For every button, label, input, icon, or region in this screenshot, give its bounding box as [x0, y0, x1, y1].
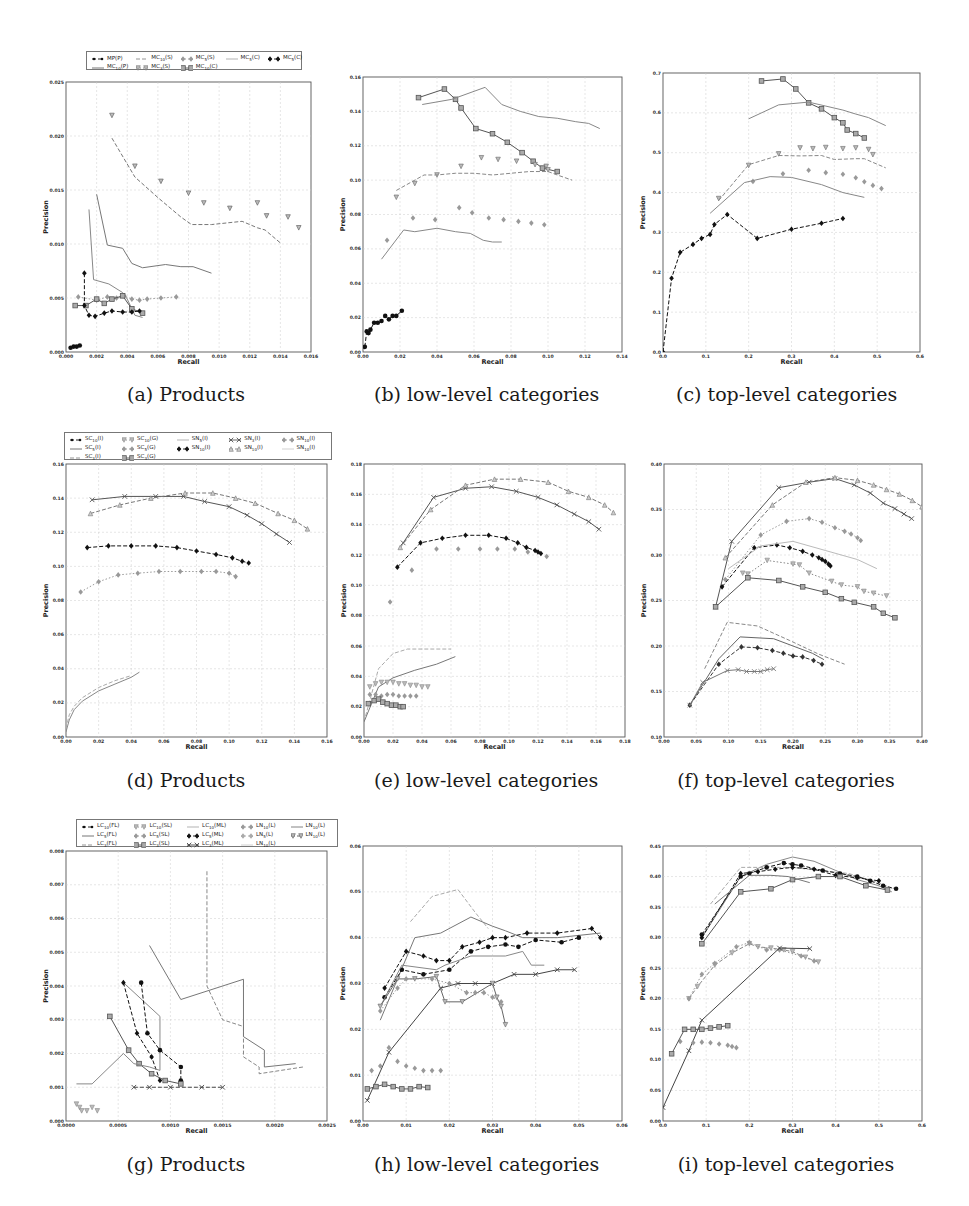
legend-label: SN10(I) [192, 444, 211, 453]
diamond-marker-icon [185, 446, 189, 452]
legend-label: MC10(C) [196, 63, 218, 72]
circle-marker-icon [799, 863, 804, 868]
legend-label: SN10(I) [297, 435, 316, 444]
legend-label: LC5(SL) [149, 831, 169, 840]
square-swatch-icon [134, 842, 146, 848]
triangle-down-swatch-icon [136, 65, 148, 71]
legend-item: LC3(SL) [134, 840, 179, 849]
legend-item: MP(P) [92, 54, 128, 63]
legend-label: LC3(FL) [97, 840, 117, 849]
legend-item: SN10(I) [282, 435, 326, 444]
line-swatch-icon [92, 65, 104, 71]
legend-label: LN10(L) [306, 822, 326, 831]
legend-item: MC10(C) [181, 63, 218, 72]
legend-label: SC3(G) [137, 453, 155, 462]
square-marker-icon [682, 1027, 687, 1032]
diamond-marker-icon [195, 833, 199, 839]
diamond-marker-icon [241, 824, 245, 830]
legend-item: LC10(SL) [134, 822, 179, 831]
legend-item: SC3(I) [70, 453, 114, 462]
y-tick-label: 0.45 [650, 844, 661, 849]
square-swatch-icon [181, 65, 193, 71]
square-marker-icon [838, 874, 843, 879]
y-tick-label: 0.25 [650, 966, 661, 971]
square-marker-icon [700, 941, 705, 946]
legend-item: LC5(ML) [187, 831, 233, 840]
triangle-down-swatch-icon [122, 437, 134, 443]
legend-item: SN3(I) [229, 435, 273, 444]
legend-label: MC10(P) [107, 63, 128, 72]
y-tick-label: 0.30 [650, 935, 661, 940]
x-tick-label: 0.1 [702, 1123, 710, 1128]
diamond-marker-icon [177, 446, 181, 452]
y-tick-label: 0.05 [650, 1088, 661, 1093]
square-marker-icon [691, 1027, 696, 1032]
line-swatch-icon [82, 833, 94, 839]
diamond-marker-icon [187, 833, 191, 839]
diamond-swatch-icon [241, 824, 253, 830]
circle-marker-icon [894, 886, 899, 891]
x-swatch-icon [187, 842, 199, 848]
legend-label: LN10(L) [256, 840, 276, 849]
diamond-marker-icon [249, 833, 253, 839]
legend-label: MC10(S) [151, 54, 172, 63]
line-swatch-icon [70, 455, 82, 461]
circle-marker-icon [881, 883, 886, 888]
y-axis-label: Precision [639, 966, 647, 1000]
caption-i: (i) top-level categories [676, 1153, 896, 1175]
legend-item: LN10(L) [241, 822, 282, 831]
diamond-swatch-icon [187, 833, 199, 839]
legend-item: LN10(L) [241, 840, 282, 849]
square-marker-icon [864, 883, 869, 888]
legend-item: MC5(C) [226, 54, 260, 63]
y-tick-label: 0.40 [650, 874, 661, 879]
circle-marker-icon [764, 865, 769, 870]
legend-item: LC3(ML) [187, 840, 233, 849]
legend-label: SC5(I) [85, 444, 101, 453]
diamond-marker-icon [122, 446, 126, 452]
legend-item: SN10(I) [229, 444, 273, 453]
square-marker-icon [885, 888, 890, 893]
legend-item: SC3(G) [122, 453, 169, 462]
legend-item: SC10(I) [70, 435, 114, 444]
diamond-swatch-icon [181, 56, 193, 62]
diamond-swatch-icon [241, 833, 253, 839]
triangle-swatch-icon [229, 446, 241, 452]
legend-label: LN10(L) [306, 831, 326, 840]
legend-item: MC5(S) [181, 54, 218, 63]
legend-row-2: SC10(I)SC10(G)SN5(I)SN3(I)SN10(I)SC5(I)S… [64, 432, 332, 460]
square-marker-icon [738, 890, 743, 895]
legend-item: MC3(S) [136, 63, 172, 72]
diamond-swatch-icon [282, 437, 294, 443]
triangle-down-swatch-icon [291, 833, 303, 839]
circle-swatch-icon [70, 437, 82, 443]
x-tick-label: 0.2 [745, 1123, 753, 1128]
y-tick-label: 0.10 [650, 1057, 661, 1062]
x-tick-label: 0.0 [659, 1123, 667, 1128]
diamond-swatch-icon [122, 446, 134, 452]
legend-item: LC10(ML) [187, 822, 233, 831]
diamond-marker-icon [282, 437, 286, 443]
square-marker-icon [669, 1051, 674, 1056]
legend-item: LC10(FL) [82, 822, 126, 831]
diamond-marker-icon [142, 833, 146, 839]
legend-item: SC5(I) [70, 444, 114, 453]
legend-item: SN10(I) [282, 444, 326, 453]
circle-marker-icon [83, 825, 86, 828]
legend-item: MC10(S) [136, 54, 172, 63]
square-marker-icon [816, 874, 821, 879]
legend-label: SC5(G) [137, 444, 155, 453]
legend-item: SN5(I) [177, 435, 221, 444]
legend-row-3: LC10(FL)LC10(SL)LC10(ML)LN10(L)LN10(L)LC… [76, 819, 338, 847]
line-swatch-icon [187, 824, 199, 830]
square-marker-icon [708, 1026, 713, 1031]
square-marker-icon [188, 65, 192, 70]
legend-label: SN10(I) [297, 444, 316, 453]
x-tick-label: 0.6 [918, 1123, 926, 1128]
chart-svg-i: 0.00.10.20.30.40.50.60.000.050.100.150.2… [0, 0, 969, 1206]
legend-label: LN5(L) [256, 831, 273, 840]
legend-item: LC5(FL) [82, 831, 126, 840]
x-axis-label: Recall [781, 1127, 803, 1135]
square-marker-icon [130, 455, 134, 460]
diamond-marker-icon [289, 437, 293, 443]
